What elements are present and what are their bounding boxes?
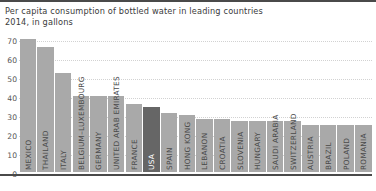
bar-slot[interactable]: SAUDI ARABIA (266, 38, 284, 172)
bar-slot[interactable]: HUNGARY (249, 38, 267, 172)
bar-slot[interactable]: CROATIA (213, 38, 231, 172)
bar-slot[interactable]: THAILAND (37, 38, 55, 172)
bar[interactable] (126, 104, 142, 172)
bar-slot[interactable]: FRANCE (125, 38, 143, 172)
bar[interactable] (320, 125, 336, 173)
bar[interactable] (302, 125, 318, 173)
y-axis-tick-label: 60 (0, 56, 17, 65)
y-axis-tick-label: 30 (0, 113, 17, 122)
chart-subtitle: 2014, in gallons (5, 17, 372, 28)
bar-slot[interactable]: BRAZIL (319, 38, 337, 172)
bar[interactable] (196, 119, 212, 172)
bar-slot[interactable]: HONG KONG (178, 38, 196, 172)
chart-title-block: Per capita consumption of bottled water … (5, 6, 372, 28)
bar-series: MEXICOTHAILANDITALYBELGIUM–LUXEMBOURGGER… (19, 38, 372, 172)
bar[interactable] (179, 115, 195, 172)
bar[interactable] (214, 119, 230, 172)
bar-slot[interactable]: MEXICO (19, 38, 37, 172)
bar-slot[interactable]: UNITED ARAB EMIRATES (107, 38, 125, 172)
bar-slot[interactable]: USA (143, 38, 161, 172)
y-axis-tick-label: 40 (0, 94, 17, 103)
bar-slot[interactable]: ROMANIA (354, 38, 372, 172)
bar-slot[interactable]: POLAND (337, 38, 355, 172)
bar[interactable] (161, 113, 177, 172)
bar[interactable] (55, 73, 71, 172)
y-axis: 010203040506070 (0, 41, 17, 174)
bar-slot[interactable]: ITALY (54, 38, 72, 172)
bar-slot[interactable]: SLOVENIA (231, 38, 249, 172)
bar[interactable] (73, 96, 89, 172)
y-axis-tick-label: 10 (0, 151, 17, 160)
bar[interactable] (37, 47, 53, 172)
y-axis-tick-label: 20 (0, 132, 17, 141)
bar[interactable] (108, 96, 124, 172)
x-axis-line (0, 174, 372, 176)
bar-slot[interactable]: SWITZERLAND (284, 38, 302, 172)
bar[interactable] (284, 121, 300, 172)
chart-title: Per capita consumption of bottled water … (5, 6, 372, 17)
bar-slot[interactable]: GERMANY (90, 38, 108, 172)
bar[interactable] (231, 121, 247, 172)
bar[interactable] (90, 96, 106, 172)
y-axis-tick-label: 70 (0, 37, 17, 46)
bar[interactable] (355, 125, 371, 173)
bar-slot[interactable]: SPAIN (160, 38, 178, 172)
bar[interactable] (249, 121, 265, 172)
y-axis-tick-label: 50 (0, 75, 17, 84)
bar-slot[interactable]: BELGIUM–LUXEMBOURG (72, 38, 90, 172)
bar-slot[interactable]: AUSTRIA (302, 38, 320, 172)
bar[interactable] (267, 121, 283, 172)
bar-slot[interactable]: LEBANON (196, 38, 214, 172)
bar[interactable] (337, 125, 353, 173)
bar[interactable] (20, 39, 36, 172)
chart-figure: Per capita consumption of bottled water … (0, 0, 376, 191)
bar[interactable] (143, 107, 159, 172)
